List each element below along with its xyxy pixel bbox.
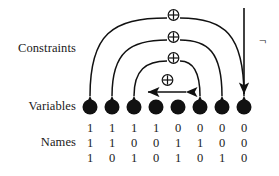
xor-symbols: [162, 10, 179, 86]
variable-node-1: [83, 100, 98, 115]
variable-node-8: [237, 100, 252, 115]
arc-2-right-half: [180, 40, 222, 96]
negation-icon: ¬: [259, 33, 266, 49]
name-bit-2-4: 0: [148, 136, 164, 151]
arc-2-left-half: [112, 40, 167, 96]
variable-node-7: [215, 100, 230, 115]
name-bit-3-5: 1: [170, 151, 186, 166]
name-bit-1-2: 1: [104, 121, 120, 136]
row-label-variables: Variables: [0, 99, 76, 114]
name-bit-3-7: 1: [214, 151, 230, 166]
name-bit-2-5: 1: [170, 136, 186, 151]
arc-1-left-half: [90, 18, 167, 96]
row-label-constraints: Constraints: [0, 41, 76, 56]
name-bit-1-5: 0: [170, 121, 186, 136]
arc-3-right-half: [180, 61, 200, 96]
name-bit-3-3: 1: [126, 151, 142, 166]
name-bit-1-3: 1: [126, 121, 142, 136]
xor-icon-1: [168, 10, 179, 21]
name-bit-3-6: 0: [192, 151, 208, 166]
name-bit-1-8: 0: [236, 121, 252, 136]
constraint-arc-2: [112, 40, 222, 96]
xor-icon-4: [162, 75, 173, 86]
variable-node-4: [149, 100, 164, 115]
variable-nodes: [83, 100, 252, 115]
name-bit-1-1: 1: [82, 121, 98, 136]
name-bit-2-8: 0: [236, 136, 252, 151]
name-bit-2-2: 1: [104, 136, 120, 151]
name-bit-1-7: 0: [214, 121, 230, 136]
name-bit-3-1: 1: [82, 151, 98, 166]
name-bit-2-7: 0: [214, 136, 230, 151]
xor-icon-3: [168, 53, 179, 64]
variable-node-5: [171, 100, 186, 115]
constraint-graph-figure: Constraints Variables Names ¬ 1111000011…: [0, 0, 279, 176]
name-bit-3-8: 0: [236, 151, 252, 166]
arc-1-right-half: [180, 18, 244, 96]
name-bit-2-6: 1: [192, 136, 208, 151]
name-bit-2-3: 0: [126, 136, 142, 151]
name-bit-2-1: 1: [82, 136, 98, 151]
variable-node-6: [193, 100, 208, 115]
name-bit-1-6: 0: [192, 121, 208, 136]
variable-node-2: [105, 100, 120, 115]
name-bit-1-4: 1: [148, 121, 164, 136]
name-bit-3-2: 0: [104, 151, 120, 166]
xor-icon-2: [168, 32, 179, 43]
row-label-names: Names: [0, 135, 76, 150]
name-bit-3-4: 0: [148, 151, 164, 166]
variable-node-3: [127, 100, 142, 115]
